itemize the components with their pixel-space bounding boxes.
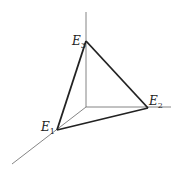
label-e2: E2 (148, 94, 163, 110)
label-e1: E1 (40, 120, 55, 136)
vertex-labels: E1 E2 E3 (40, 34, 163, 136)
edge-e1-e3 (57, 41, 86, 130)
edge-e3-e2 (86, 41, 148, 108)
label-e3: E3 (71, 34, 86, 50)
triangle (57, 41, 148, 130)
diagram-canvas: E1 E2 E3 (0, 0, 180, 173)
axes (12, 12, 171, 164)
